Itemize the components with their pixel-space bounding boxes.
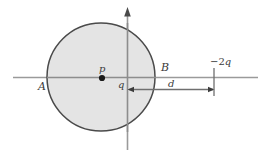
label-neg-2q-variable: q	[225, 56, 231, 67]
physics-figure: A B p q d −2q	[0, 0, 269, 154]
charge-p-dot	[99, 75, 105, 81]
vertical-axis-arrowhead-icon	[124, 7, 131, 17]
label-charge-p: p	[99, 64, 105, 74]
label-neg-2q-sign: −2	[210, 56, 225, 67]
label-A: A	[38, 81, 46, 92]
label-distance-d: d	[168, 79, 174, 89]
figure-canvas	[0, 0, 269, 154]
label-charge-q: q	[118, 80, 124, 90]
label-charge-neg-2q: −2q	[210, 57, 231, 67]
label-B: B	[161, 62, 169, 73]
